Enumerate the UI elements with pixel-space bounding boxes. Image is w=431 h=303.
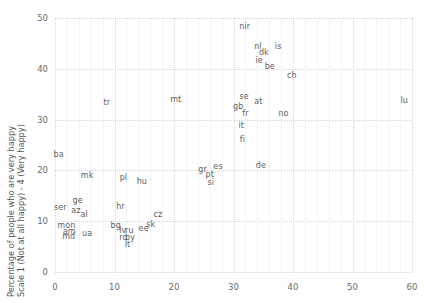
gridline-vertical-minor <box>210 18 211 272</box>
gridline-vertical <box>412 18 413 272</box>
gridline-horizontal <box>55 272 412 273</box>
gridline-vertical-minor <box>376 18 377 272</box>
data-point-label: mk <box>81 172 94 180</box>
data-point-label: is <box>275 43 282 51</box>
data-point-label: ge <box>73 197 83 205</box>
data-point-label: md <box>62 233 75 241</box>
data-point-label: ba <box>53 151 63 159</box>
gridline-vertical-minor <box>79 18 80 272</box>
gridline-vertical-minor <box>103 18 104 272</box>
data-point-label: cz <box>154 211 163 219</box>
x-tick-label: 50 <box>347 283 358 292</box>
y-axis-label-line-2: Scale 1 (Not at all happy) - 4 (Very hap… <box>17 124 26 297</box>
gridline-vertical-minor <box>281 18 282 272</box>
gridline-vertical-minor <box>317 18 318 272</box>
y-tick-label: 10 <box>30 217 48 226</box>
y-axis-label-line-1: Percentage of people who are very happy <box>7 126 16 297</box>
x-tick-label: 40 <box>288 283 299 292</box>
data-point-label: hu <box>137 178 147 186</box>
data-point-label: ch <box>287 72 297 80</box>
gridline-vertical-minor <box>305 18 306 272</box>
data-point-label: pl <box>120 174 128 182</box>
gridline-vertical-minor <box>329 18 330 272</box>
data-point-label: nir <box>239 23 250 31</box>
data-point-label: sk <box>146 221 155 229</box>
gridline-vertical-minor <box>186 18 187 272</box>
data-point-label: az <box>71 207 80 215</box>
data-point-label: fr <box>242 110 248 118</box>
plot-area: nirnldkisiebechseatgbfrnolumttritfibadee… <box>55 18 412 272</box>
gridline-vertical-minor <box>400 18 401 272</box>
gridline-vertical-minor <box>162 18 163 272</box>
gridline-horizontal <box>55 69 412 70</box>
y-tick-label: 0 <box>30 268 48 277</box>
data-point-label: lt <box>125 241 131 249</box>
data-point-label: be <box>265 63 275 71</box>
x-tick-label: 10 <box>109 283 120 292</box>
gridline-horizontal <box>55 170 412 171</box>
y-tick-label: 40 <box>30 64 48 73</box>
gridline-vertical-minor <box>364 18 365 272</box>
gridline-vertical <box>234 18 235 272</box>
x-tick-label: 30 <box>228 283 239 292</box>
gridline-vertical <box>174 18 175 272</box>
gridline-horizontal <box>55 120 412 121</box>
data-point-label: se <box>240 93 249 101</box>
gridline-vertical <box>353 18 354 272</box>
data-point-label: at <box>254 98 262 106</box>
y-tick-label: 20 <box>30 166 48 175</box>
gridline-vertical-minor <box>198 18 199 272</box>
gridline-vertical-minor <box>138 18 139 272</box>
gridline-vertical-minor <box>388 18 389 272</box>
y-tick-label: 50 <box>30 14 48 23</box>
x-tick-label: 60 <box>407 283 418 292</box>
gridline-vertical-minor <box>222 18 223 272</box>
x-tick-label: 20 <box>169 283 180 292</box>
data-point-label: lu <box>401 97 409 105</box>
gridline-vertical-minor <box>269 18 270 272</box>
x-tick-label: 0 <box>52 283 57 292</box>
data-point-label: ie <box>255 57 262 65</box>
data-point-label: mt <box>170 96 181 104</box>
y-tick-label: 30 <box>30 115 48 124</box>
scatter-chart-figure: Percentage of people who are very happy … <box>0 0 431 303</box>
gridline-horizontal <box>55 18 412 19</box>
y-axis-label: Percentage of people who are very happy … <box>0 0 28 303</box>
gridline-vertical <box>115 18 116 272</box>
gridline-horizontal <box>55 221 412 222</box>
data-point-label: de <box>256 162 266 170</box>
gridline-vertical-minor <box>341 18 342 272</box>
data-point-label: tr <box>103 99 110 107</box>
data-point-label: fi <box>240 136 245 144</box>
data-point-label: es <box>213 163 222 171</box>
gridline-vertical-minor <box>245 18 246 272</box>
data-point-label: it <box>238 122 244 130</box>
data-point-label: hr <box>116 203 125 211</box>
gridline-vertical <box>55 18 56 272</box>
data-point-label: al <box>80 211 87 219</box>
data-point-label: ua <box>82 230 92 238</box>
gridline-vertical-minor <box>150 18 151 272</box>
data-point-label: ser <box>54 204 67 212</box>
data-point-label: si <box>208 179 215 187</box>
gridline-vertical <box>293 18 294 272</box>
data-point-label: no <box>278 110 288 118</box>
